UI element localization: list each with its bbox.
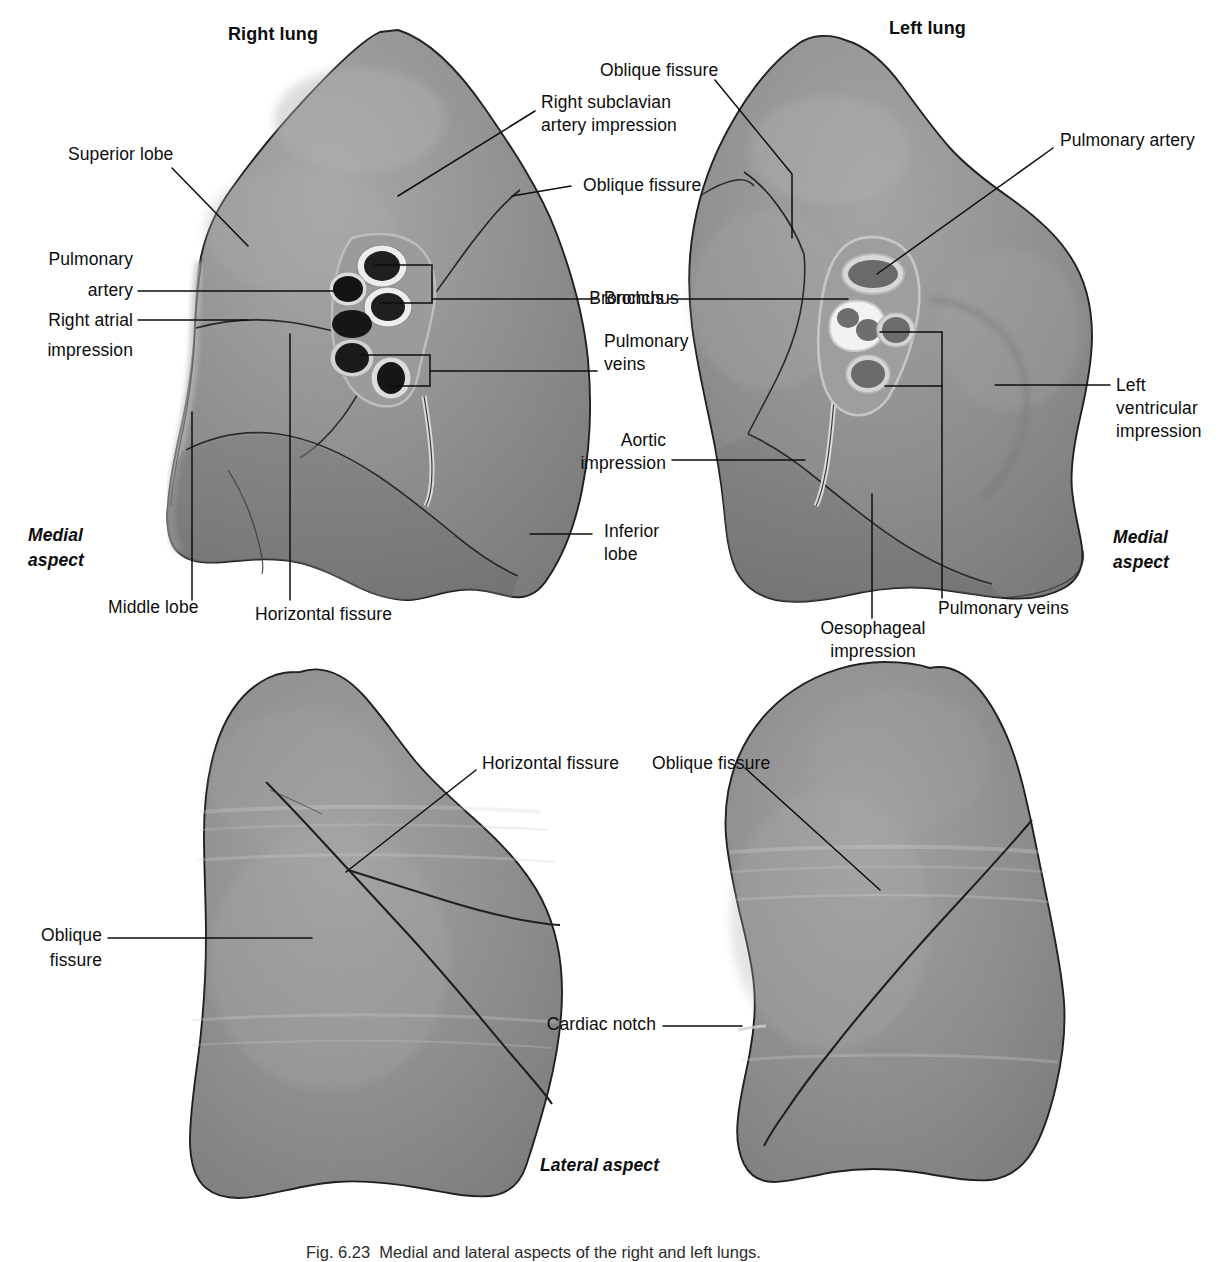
label-pulmonary-artery-right-line1: Pulmonary <box>0 249 133 270</box>
left-superior-pulmonary-vein <box>877 313 915 347</box>
label-right-subclavian-line2: artery impression <box>541 115 677 136</box>
label-pulmonary-veins-right-line1: Pulmonary <box>604 331 689 352</box>
label-horizontal-fissure-lateral: Horizontal fissure <box>482 753 619 774</box>
label-oblique-fissure-left-top: Oblique fissure <box>600 60 718 81</box>
label-pulmonary-artery-left: Pulmonary artery <box>1060 130 1195 151</box>
right-inferior-pulmonary-vein <box>371 357 411 399</box>
label-aortic-impression-line2: impression <box>520 453 666 474</box>
label-right-atrial-line2: impression <box>0 340 133 361</box>
left-lung-lateral-figure <box>726 662 1065 1182</box>
figure-caption: Fig. 6.23 Medial and lateral aspects of … <box>306 1243 761 1262</box>
right-pulmonary-artery-lumen <box>329 272 367 306</box>
label-left-ventricular-anchor-line2: ventricular <box>1116 398 1198 419</box>
label-inferior-lobe-line1: Inferior <box>604 521 659 542</box>
label-oblique-fissure-lateral-r-line1: Oblique <box>0 925 102 946</box>
title-right-lung: Right lung <box>228 24 318 45</box>
aspect-lateral: Lateral aspect <box>540 1155 659 1176</box>
label-pulmonary-veins-left: Pulmonary veins <box>938 598 1069 619</box>
label-oesophageal-line2: impression <box>768 641 978 662</box>
label-middle-lobe: Middle lobe <box>108 597 199 618</box>
label-aortic-impression-line1: Aortic <box>530 430 666 451</box>
label-left-ventricular-anchor-line3: impression <box>1116 421 1202 442</box>
left-lung-medial-figure <box>689 36 1092 602</box>
aspect-medial-left-line1: Medial <box>28 525 83 546</box>
right-superior-pulmonary-vein <box>330 339 374 377</box>
left-inferior-pulmonary-vein <box>846 355 890 393</box>
label-pulmonary-artery-right-line2: artery <box>0 280 133 301</box>
left-pulmonary-artery-lumen <box>842 254 904 294</box>
label-cardiac-notch: Cardiac notch <box>490 1014 656 1035</box>
label-inferior-lobe-line2: lobe <box>604 544 638 565</box>
label-left-ventricular-anchor-line1: Left <box>1116 375 1146 396</box>
label-right-subclavian-line1: Right subclavian <box>541 92 671 113</box>
aspect-medial-right-line2: aspect <box>1113 552 1169 573</box>
label-oblique-fissure-lateral-l: Oblique fissure <box>652 753 770 774</box>
right-lung-lateral-figure <box>190 669 562 1197</box>
label-pulmonary-veins-right-line2: veins <box>604 354 645 375</box>
label-bronchus-left: Bronchus <box>530 288 664 309</box>
right-lower-artery-lumen <box>332 310 372 338</box>
label-horizontal-fissure-medial: Horizontal fissure <box>255 604 392 625</box>
title-left-lung: Left lung <box>889 18 966 39</box>
label-oesophageal-line1: Oesophageal <box>768 618 978 639</box>
label-oblique-fissure-right: Oblique fissure <box>583 175 701 196</box>
label-oblique-fissure-lateral-r-line2: fissure <box>0 950 102 971</box>
aspect-medial-right-line1: Medial <box>1113 527 1168 548</box>
label-superior-lobe: Superior lobe <box>68 144 173 165</box>
label-right-atrial-line1: Right atrial <box>0 310 133 331</box>
aspect-medial-left-line2: aspect <box>28 550 84 571</box>
